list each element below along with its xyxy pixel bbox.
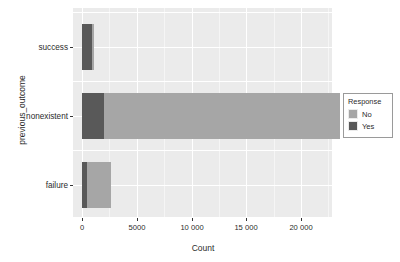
y-tick-label-failure: failure <box>0 181 68 190</box>
y-tick-label-success: success <box>0 43 68 52</box>
gridline-horizontal-success <box>73 47 332 48</box>
y-tick-label-nonexistent: nonexistent <box>0 112 68 121</box>
gridline-horizontal-mid-1 <box>73 81 332 82</box>
legend-item-yes[interactable]: Yes <box>348 121 388 131</box>
legend: Response No Yes <box>343 93 393 138</box>
x-axis-title: Count <box>73 243 333 253</box>
legend-item-no[interactable]: No <box>348 109 388 119</box>
legend-label-yes: Yes <box>362 122 374 131</box>
bar-segment-success-no[interactable] <box>92 24 94 70</box>
bar-segment-success-yes[interactable] <box>82 24 92 70</box>
chart-container: previous_outcome Count success nonexiste… <box>0 0 400 262</box>
legend-title: Response <box>348 97 388 106</box>
bar-segment-failure-no[interactable] <box>87 162 111 208</box>
x-tick-mark-0 <box>82 218 83 221</box>
x-tick-label-20000: 20 000 <box>289 223 312 232</box>
x-tick-label-5000: 5000 <box>129 223 146 232</box>
legend-swatch-no-icon <box>348 109 358 119</box>
x-tick-label-10000: 10 000 <box>180 223 203 232</box>
bar-segment-nonexistent-no[interactable] <box>104 93 340 139</box>
gridline-horizontal-top <box>73 12 332 13</box>
x-tick-mark-10000 <box>192 218 193 221</box>
plot-panel <box>73 8 332 217</box>
x-tick-mark-20000 <box>301 218 302 221</box>
x-tick-label-15000: 15 000 <box>234 223 257 232</box>
gridline-horizontal-mid-2 <box>73 150 332 151</box>
x-tick-label-0: 0 <box>80 223 84 232</box>
bar-segment-nonexistent-yes[interactable] <box>82 93 104 139</box>
gridline-horizontal-failure <box>73 185 332 186</box>
x-tick-mark-15000 <box>246 218 247 221</box>
legend-swatch-yes-icon <box>348 121 358 131</box>
y-axis-title: previous_outcome <box>17 30 27 190</box>
x-tick-mark-5000 <box>137 218 138 221</box>
legend-label-no: No <box>362 110 372 119</box>
